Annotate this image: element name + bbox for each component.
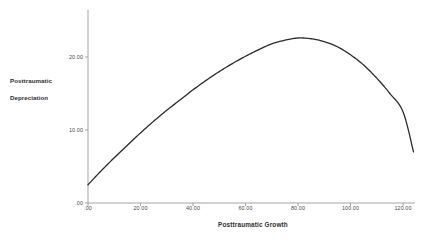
x-tick-label-40: 40.00	[186, 205, 200, 211]
plot-svg	[0, 0, 423, 242]
x-tick-label-80: 80.00	[291, 205, 305, 211]
chart-figure: Posttraumatic Depreciation	[0, 0, 423, 242]
x-tick-label-60: 60.00	[239, 205, 253, 211]
plot-area	[0, 0, 423, 242]
data-curve	[88, 38, 414, 185]
x-tick-label-120: 120.00	[394, 205, 411, 211]
y-tick-label-0: .00	[75, 200, 83, 206]
x-axis-title: Posttraumatic Growth	[88, 221, 418, 228]
x-tick-label-0: .00	[84, 205, 92, 211]
y-tick-label-10: 10.00	[69, 127, 83, 133]
x-tick-label-100: 100.00	[342, 205, 359, 211]
y-tick-label-20: 20.00	[69, 54, 83, 60]
x-tick-label-20: 20.00	[134, 205, 148, 211]
